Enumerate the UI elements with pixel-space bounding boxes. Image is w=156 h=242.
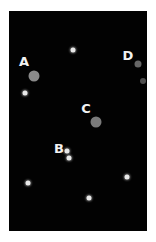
star-dot [125,175,130,180]
label-b: B [54,142,64,155]
star-dot [26,181,31,186]
label-d: D [123,49,134,62]
object-a-circle [29,71,40,82]
object-c-circle [91,117,102,128]
star-dot-b2 [67,156,72,161]
star-dot [71,48,76,53]
star-dot-b1 [65,149,70,154]
label-c: C [81,102,91,115]
object-d-circle-1 [135,61,142,68]
star-dot [23,91,28,96]
star-field-background [9,11,147,231]
star-dot [87,196,92,201]
object-d-circle-2 [140,78,146,84]
label-a: A [19,55,29,68]
